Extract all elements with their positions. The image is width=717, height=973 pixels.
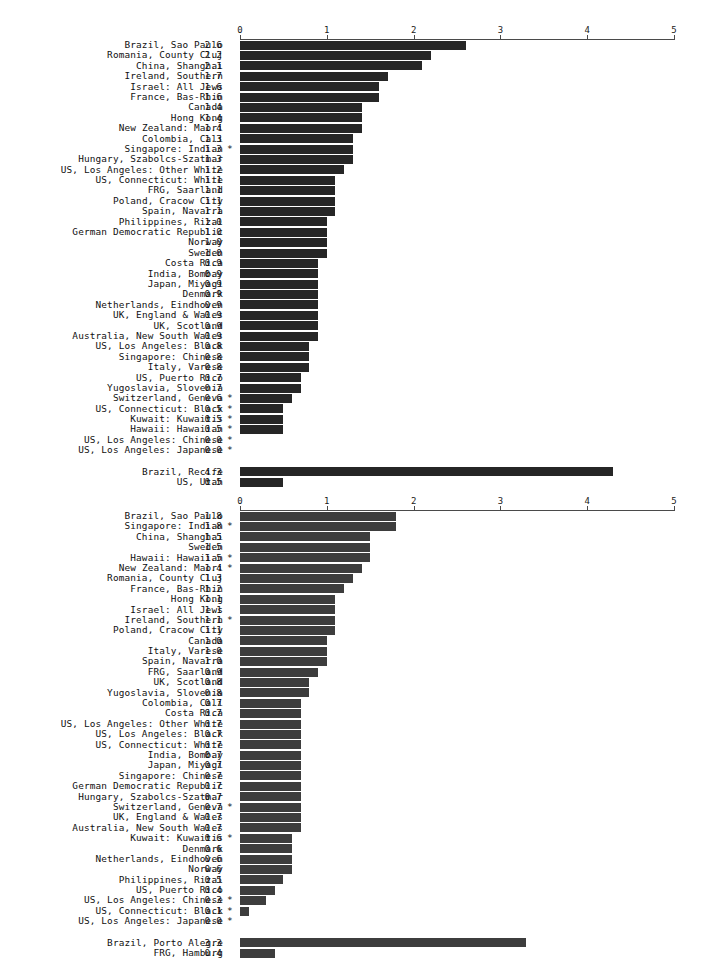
bar-row-value: 1.6: [196, 81, 222, 92]
bar-row: Yugoslavia, Slovenia0.7: [0, 383, 717, 393]
bar: [240, 782, 301, 791]
bar-row-value: 1.2: [196, 164, 222, 175]
asterisk-marker: *: [227, 905, 233, 916]
asterisk-marker: *: [227, 562, 233, 573]
bar: [240, 394, 292, 403]
bar: [240, 425, 283, 434]
bar-row: US, Connecticut: White1.1: [0, 175, 717, 185]
bar: [240, 93, 379, 102]
bar: [240, 949, 275, 958]
bar-row-value: 0.7: [196, 822, 222, 833]
bar: [240, 311, 318, 320]
bar: [240, 404, 283, 413]
bar: [240, 197, 335, 206]
bar-row-value: 1.2: [196, 583, 222, 594]
bar-row: FRG, Saarland0.9: [0, 667, 717, 677]
bar-row: Colombia, Cali0.7: [0, 698, 717, 708]
bar-row-value: 1.0: [196, 635, 222, 646]
asterisk-marker: *: [227, 403, 233, 414]
bar: [240, 532, 370, 541]
bar-row-value: 0.9: [196, 257, 222, 268]
bar-row-value: 0.9: [196, 666, 222, 677]
axis-tick-label: 3: [498, 496, 503, 506]
bar-rows-lower: Brazil, Sao Paulo1.8Singapore: Indian1.8…: [0, 511, 717, 958]
bar: [240, 72, 388, 81]
bar: [240, 342, 309, 351]
bar-row-value: 1.3: [196, 143, 222, 154]
figure-root: { "figure": { "background_color": "#ffff…: [0, 0, 717, 973]
bar-row-value: 2.1: [196, 60, 222, 71]
bar-row: France, Bas-Rhin1.2: [0, 584, 717, 594]
axis-tick-label: 1: [324, 496, 329, 506]
bar-row: Poland, Cracow City1.1: [0, 625, 717, 635]
bar-row-value: 1.1: [196, 604, 222, 615]
bar: [240, 553, 370, 562]
bar: [240, 688, 309, 697]
bar-row: FRG, Saarland1.1: [0, 185, 717, 195]
bar: [240, 886, 275, 895]
bar-row-value: 1.1: [196, 205, 222, 216]
bar: [240, 145, 353, 154]
bar: [240, 834, 292, 843]
bar-row-value: 1.0: [196, 655, 222, 666]
bar: [240, 751, 301, 760]
bar: [240, 51, 431, 60]
bar-row-value: 0.7: [196, 749, 222, 760]
bar: [240, 616, 335, 625]
x-axis-lower: 012345: [0, 489, 717, 511]
bar-row-value: 0.6: [196, 853, 222, 864]
bar: [240, 574, 353, 583]
bar-row-value: 0.6: [196, 843, 222, 854]
bar-row: Kuwait: Kuwaitis0.6*: [0, 833, 717, 843]
bar: [240, 134, 353, 143]
bar-row-value: 0.6: [196, 392, 222, 403]
bar-row: Hong Kong1.4: [0, 113, 717, 123]
bar-row-value: 1.7: [196, 70, 222, 81]
bar: [240, 740, 301, 749]
bar-row-value: 0.5: [196, 423, 222, 434]
bar-row-value: 0.9: [196, 330, 222, 341]
bar-row-value: 1.1: [196, 195, 222, 206]
axis-tick-label: 3: [498, 25, 503, 35]
bar-row: Romania, County Cluj1.3: [0, 573, 717, 583]
bar-row-value: 0.8: [196, 361, 222, 372]
bar-row-value: 1.5: [196, 531, 222, 542]
bar-row: Japan, Miyagi0.7: [0, 760, 717, 770]
bar: [240, 855, 292, 864]
bar-row-value: 2.2: [196, 49, 222, 60]
bar-row: US, Los Angeles: Black0.8: [0, 341, 717, 351]
bar-row-value: 1.0: [196, 226, 222, 237]
bar-row: China, Shanghai1.5: [0, 532, 717, 542]
bar: [240, 82, 379, 91]
bar-rows-upper: Brazil, Sao Paulo2.6Romania, County Cluj…: [0, 40, 717, 487]
bar-row: Italy, Varese1.0: [0, 646, 717, 656]
bar-row-value: 1.4: [196, 101, 222, 112]
bar: [240, 720, 301, 729]
asterisk-marker: *: [227, 915, 233, 926]
bar: [240, 61, 422, 70]
bar: [240, 332, 318, 341]
bar-row: Switzerland, Geneva0.7*: [0, 802, 717, 812]
bar: [240, 896, 266, 905]
bar-row-value: 0.9: [196, 278, 222, 289]
asterisk-marker: *: [227, 832, 233, 843]
bar-row-value: 0.7: [196, 811, 222, 822]
bar: [240, 238, 327, 247]
bar-row: Sweden1.0: [0, 248, 717, 258]
bar: [240, 595, 335, 604]
bar-row-value: 4.3: [196, 466, 222, 477]
asterisk-marker: *: [227, 614, 233, 625]
bar-row-value: 0.8: [196, 340, 222, 351]
bar: [240, 564, 362, 573]
bar-row: Ireland, Southern1.1*: [0, 615, 717, 625]
bar-row: Israel: All Jews1.1: [0, 605, 717, 615]
bar-row-value: 0.7: [196, 780, 222, 791]
bar-row-value: 1.5: [196, 552, 222, 563]
bar-row: Brazil, Porto Alegre3.3: [0, 938, 717, 948]
asterisk-marker: *: [227, 801, 233, 812]
bar-row: UK, England & Wales0.9: [0, 310, 717, 320]
bar-row-value: 1.8: [196, 510, 222, 521]
bar: [240, 647, 327, 656]
bar-row: US, Los Angeles: Japanese0.0*: [0, 445, 717, 455]
bar-row-value: 0.7: [196, 707, 222, 718]
